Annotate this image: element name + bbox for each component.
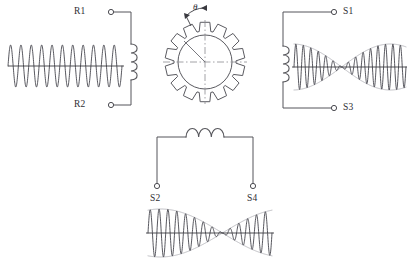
rotor-group: [163, 5, 247, 104]
terminal-marker-r1: [108, 9, 113, 14]
terminal-marker-s3: [331, 105, 336, 110]
stator-s2-s4-coil: [186, 128, 224, 137]
terminal-label-r2: R2: [74, 100, 86, 110]
waveform-group: [8, 44, 407, 257]
terminal-marker-s4: [250, 183, 255, 188]
angle-leader-left: [186, 16, 191, 26]
terminal-marker-r2: [108, 102, 113, 107]
diagram-canvas: [0, 0, 407, 258]
rotor-angle-label: θ: [193, 3, 197, 12]
stator-s2-s4-wire: [157, 137, 253, 186]
angle-arrow-head-right: [201, 5, 207, 11]
terminal-label-s3: S3: [343, 103, 353, 113]
rotor-winding-coil: [131, 44, 137, 80]
terminal-marker-s1: [331, 9, 336, 14]
rotor-loop-wire: [111, 12, 131, 105]
terminal-label-s2: S2: [150, 194, 160, 204]
circuit-wires: [111, 12, 334, 186]
terminal-markers-group: [108, 9, 336, 188]
s1-s3-envelope-lower: [294, 67, 406, 90]
terminal-marker-s2: [154, 183, 159, 188]
terminal-label-s1: S1: [343, 7, 353, 17]
resolver-diagram: R1 R2 S1 S3 S2 S4 θ: [0, 0, 407, 258]
terminal-label-s4: S4: [247, 194, 257, 204]
rotor-angle-ray: [184, 41, 205, 62]
windings-group: [131, 44, 289, 137]
terminal-label-r1: R1: [74, 7, 86, 17]
stator-s1-s3-coil: [283, 46, 289, 82]
